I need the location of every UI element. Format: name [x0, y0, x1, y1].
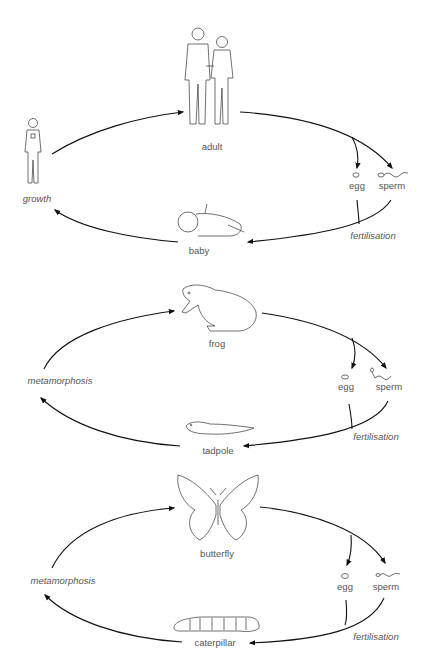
label-fertilisation: fertilisation	[353, 431, 398, 442]
sperm-icon	[371, 368, 392, 380]
label-fertilisation: fertilisation	[350, 230, 395, 241]
butterfly-cycle: butterfly metamorphosis egg sperm fertil…	[31, 475, 400, 648]
adult-couple-icon	[185, 28, 233, 124]
arrow-baby-to-growth	[55, 210, 178, 242]
label-fertilisation: fertilisation	[353, 631, 398, 642]
label-sperm: sperm	[379, 180, 405, 191]
human-cycle: adult growth egg sperm fertilisation bab…	[23, 28, 408, 256]
label-sperm: sperm	[373, 581, 399, 592]
arrow-caterpillar-to-butterfly	[52, 508, 174, 568]
arrow-adult-to-sperm	[240, 112, 392, 168]
arrow-adult-to-egg	[352, 137, 358, 168]
label-metamorphosis: metamorphosis	[28, 375, 93, 386]
sperm-icon	[378, 172, 408, 177]
arrow-tadpole-to-frog	[44, 311, 174, 369]
arrow-frog-to-sperm	[262, 313, 386, 368]
label-caterpillar: caterpillar	[194, 637, 235, 648]
egg-joining-line	[345, 600, 347, 625]
frog-icon	[182, 285, 256, 331]
egg-joining-line	[349, 404, 352, 429]
label-adult: adult	[202, 141, 223, 152]
label-baby: baby	[189, 245, 210, 256]
baby-icon	[178, 204, 244, 236]
egg-icon	[342, 574, 349, 579]
label-egg: egg	[337, 581, 353, 592]
child-growth-icon	[25, 119, 41, 184]
label-butterfly: butterfly	[200, 548, 234, 559]
arrow-butterfly-to-egg	[347, 535, 351, 565]
caterpillar-icon	[174, 617, 259, 632]
egg-joining-line	[357, 200, 359, 224]
egg-icon	[342, 375, 349, 379]
frog-cycle: frog metamorphosis egg sperm fertilisati…	[28, 285, 403, 456]
tadpole-icon	[186, 422, 254, 434]
arrow-growth-to-adult	[52, 112, 183, 154]
arrow-butterfly-to-sperm	[260, 507, 385, 563]
label-egg: egg	[349, 180, 365, 191]
butterfly-icon	[178, 475, 259, 540]
label-metamorphosis: metamorphosis	[31, 575, 96, 586]
sperm-icon	[376, 573, 400, 576]
arrow-to-metamorphosis	[41, 398, 180, 446]
life-cycle-diagram: adult growth egg sperm fertilisation bab…	[0, 0, 422, 664]
arrow-to-metamorphosis	[45, 595, 182, 642]
label-frog: frog	[209, 338, 225, 349]
label-tadpole: tadpole	[202, 445, 233, 456]
label-growth: growth	[23, 193, 52, 204]
egg-icon	[353, 173, 359, 177]
label-sperm: sperm	[376, 381, 402, 392]
label-egg: egg	[338, 381, 354, 392]
arrow-frog-to-egg	[352, 338, 355, 368]
